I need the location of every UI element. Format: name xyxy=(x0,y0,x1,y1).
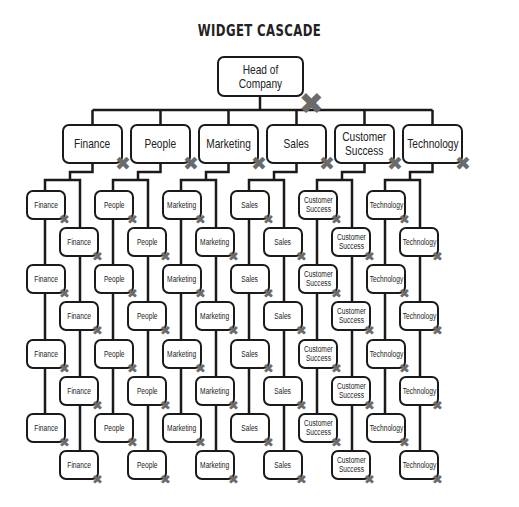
close-x-icon[interactable]: ✖ xyxy=(387,154,403,173)
close-x-icon[interactable]: ✖ xyxy=(399,287,410,300)
close-x-icon[interactable]: ✖ xyxy=(127,287,138,300)
close-x-icon[interactable]: ✖ xyxy=(455,154,471,173)
child-node[interactable]: Sales✖ xyxy=(263,227,303,257)
child-node[interactable]: Customer Success✖ xyxy=(298,413,338,443)
child-node[interactable]: Sales✖ xyxy=(263,450,303,480)
close-x-icon[interactable]: ✖ xyxy=(263,436,274,449)
child-node[interactable]: People✖ xyxy=(94,413,134,443)
child-node[interactable]: Technology✖ xyxy=(399,450,439,480)
close-x-icon[interactable]: ✖ xyxy=(251,154,267,173)
child-node[interactable]: Marketing✖ xyxy=(162,413,202,443)
close-x-icon[interactable]: ✖ xyxy=(195,213,206,226)
close-x-icon[interactable]: ✖ xyxy=(59,213,70,226)
department-node-5[interactable]: Technology✖ xyxy=(402,124,463,164)
close-x-icon[interactable]: ✖ xyxy=(160,324,171,337)
close-x-icon[interactable]: ✖ xyxy=(331,436,342,449)
close-x-icon[interactable]: ✖ xyxy=(183,154,199,173)
child-node[interactable]: Technology✖ xyxy=(399,301,439,331)
child-node[interactable]: Marketing✖ xyxy=(162,190,202,220)
child-node[interactable]: Finance✖ xyxy=(26,190,66,220)
child-node[interactable]: Sales✖ xyxy=(230,339,270,369)
close-x-icon[interactable]: ✖ xyxy=(331,287,342,300)
child-node[interactable]: People✖ xyxy=(94,339,134,369)
child-node[interactable]: Technology✖ xyxy=(366,413,406,443)
child-node[interactable]: Marketing✖ xyxy=(195,227,235,257)
child-node[interactable]: Technology✖ xyxy=(366,190,406,220)
close-x-icon[interactable]: ✖ xyxy=(160,399,171,412)
close-x-icon[interactable]: ✖ xyxy=(92,250,103,263)
close-x-icon[interactable]: ✖ xyxy=(432,250,443,263)
department-node-1[interactable]: People✖ xyxy=(130,124,191,164)
child-node[interactable]: Customer Success✖ xyxy=(331,450,371,480)
child-node[interactable]: Sales✖ xyxy=(263,376,303,406)
child-node[interactable]: Customer Success✖ xyxy=(298,339,338,369)
close-x-icon[interactable]: ✖ xyxy=(296,250,307,263)
close-x-icon[interactable]: ✖ xyxy=(127,213,138,226)
close-x-icon[interactable]: ✖ xyxy=(228,324,239,337)
close-x-icon[interactable]: ✖ xyxy=(160,250,171,263)
close-x-icon[interactable]: ✖ xyxy=(195,287,206,300)
close-x-icon[interactable]: ✖ xyxy=(92,399,103,412)
close-x-icon[interactable]: ✖ xyxy=(364,250,375,263)
child-node[interactable]: Finance✖ xyxy=(59,450,99,480)
child-node[interactable]: People✖ xyxy=(127,227,167,257)
close-x-icon[interactable]: ✖ xyxy=(228,473,239,486)
close-x-icon[interactable]: ✖ xyxy=(399,436,410,449)
child-node[interactable]: Customer Success✖ xyxy=(331,227,371,257)
close-x-icon[interactable]: ✖ xyxy=(263,287,274,300)
close-x-icon[interactable]: ✖ xyxy=(127,436,138,449)
close-x-icon[interactable]: ✖ xyxy=(195,362,206,375)
close-x-icon[interactable]: ✖ xyxy=(296,399,307,412)
child-node[interactable]: Sales✖ xyxy=(230,264,270,294)
close-x-icon[interactable]: ✖ xyxy=(364,399,375,412)
child-node[interactable]: Sales✖ xyxy=(263,301,303,331)
child-node[interactable]: Finance✖ xyxy=(59,376,99,406)
close-x-icon[interactable]: ✖ xyxy=(160,473,171,486)
close-x-icon[interactable]: ✖ xyxy=(59,436,70,449)
child-node[interactable]: Technology✖ xyxy=(399,227,439,257)
close-x-icon[interactable]: ✖ xyxy=(228,399,239,412)
close-x-icon[interactable]: ✖ xyxy=(399,362,410,375)
close-x-icon[interactable]: ✖ xyxy=(263,362,274,375)
department-node-0[interactable]: Finance✖ xyxy=(62,124,123,164)
child-node[interactable]: Finance✖ xyxy=(26,339,66,369)
child-node[interactable]: Technology✖ xyxy=(366,264,406,294)
child-node[interactable]: People✖ xyxy=(127,301,167,331)
child-node[interactable]: Technology✖ xyxy=(366,339,406,369)
department-node-2[interactable]: Marketing✖ xyxy=(198,124,259,164)
close-x-icon[interactable]: ✖ xyxy=(92,324,103,337)
child-node[interactable]: People✖ xyxy=(127,376,167,406)
close-x-icon[interactable]: ✖ xyxy=(296,473,307,486)
child-node[interactable]: Marketing✖ xyxy=(195,450,235,480)
child-node[interactable]: Marketing✖ xyxy=(162,339,202,369)
child-node[interactable]: Sales✖ xyxy=(230,413,270,443)
child-node[interactable]: Customer Success✖ xyxy=(298,264,338,294)
child-node[interactable]: People✖ xyxy=(94,190,134,220)
child-node[interactable]: Marketing✖ xyxy=(195,376,235,406)
child-node[interactable]: Customer Success✖ xyxy=(331,301,371,331)
close-x-icon[interactable]: ✖ xyxy=(432,324,443,337)
close-x-icon[interactable]: ✖ xyxy=(263,213,274,226)
close-x-icon[interactable]: ✖ xyxy=(319,154,335,173)
close-x-icon[interactable]: ✖ xyxy=(195,436,206,449)
child-node[interactable]: People✖ xyxy=(94,264,134,294)
child-node[interactable]: Customer Success✖ xyxy=(331,376,371,406)
child-node[interactable]: People✖ xyxy=(127,450,167,480)
child-node[interactable]: Finance✖ xyxy=(59,227,99,257)
close-x-icon[interactable]: ✖ xyxy=(92,473,103,486)
child-node[interactable]: Technology✖ xyxy=(399,376,439,406)
child-node[interactable]: Customer Success✖ xyxy=(298,190,338,220)
close-x-icon[interactable]: ✖ xyxy=(399,213,410,226)
child-node[interactable]: Marketing✖ xyxy=(162,264,202,294)
close-x-icon[interactable]: ✖ xyxy=(59,287,70,300)
child-node[interactable]: Finance✖ xyxy=(26,264,66,294)
close-x-icon[interactable]: ✖ xyxy=(432,473,443,486)
close-x-icon[interactable]: ✖ xyxy=(364,324,375,337)
close-x-icon[interactable]: ✖ xyxy=(115,154,131,173)
department-node-3[interactable]: Sales✖ xyxy=(266,124,327,164)
child-node[interactable]: Sales✖ xyxy=(230,190,270,220)
close-x-icon[interactable]: ✖ xyxy=(364,473,375,486)
close-x-icon[interactable]: ✖ xyxy=(299,89,324,119)
close-x-icon[interactable]: ✖ xyxy=(127,362,138,375)
head-of-company-node[interactable]: Head of Company ✖ xyxy=(217,56,304,97)
